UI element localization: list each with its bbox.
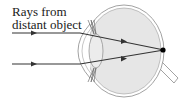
arrow-icon [31, 62, 37, 67]
lens [89, 34, 103, 68]
eye-diagram [0, 0, 186, 98]
arrow-icon [31, 31, 37, 36]
focal-point [160, 47, 165, 52]
